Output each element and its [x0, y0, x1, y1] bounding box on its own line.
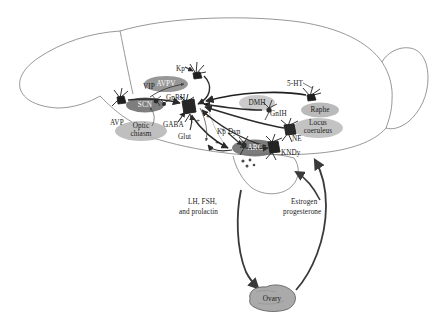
sign-plus-6: +	[215, 140, 219, 148]
label-vip: VIP	[143, 83, 155, 91]
label-avp: AVP	[110, 119, 124, 127]
figure-canvas: AVPV SCN Opticchiasm DMH Raphe Locuscoer…	[0, 0, 441, 324]
arrow-estrogen-progesterone-to-brain	[296, 160, 326, 290]
label-gnih: GnIH	[270, 110, 287, 118]
label-kndy: KNDy	[281, 149, 301, 157]
nucleus-label-locus-coeruleus: Locuscoeruleus	[296, 119, 340, 135]
label-progesterone: progesterone	[283, 208, 321, 216]
label-5-ht: 5-HT	[287, 80, 303, 88]
nucleus-label-scn: SCN	[133, 101, 157, 109]
arrow-lh-fsh-prolactin-to-ovary	[238, 190, 258, 288]
nucleus-label-dmh: DMH	[243, 99, 271, 107]
sign-plus-5: +	[206, 114, 210, 122]
nucleus-label-raphe: Raphe	[306, 106, 334, 114]
label-lh-fsh: LH, FSH,	[188, 198, 217, 206]
label-gaba: GABA	[163, 121, 184, 129]
nucleus-label-avpv: AVPV	[151, 80, 181, 88]
sign-plus-7: +	[209, 147, 213, 155]
label-kp-avpv: Kp	[176, 65, 185, 73]
connector-5ht	[303, 83, 312, 88]
sign-plus-8: +	[221, 127, 225, 135]
label-glut: Glut	[178, 133, 191, 141]
sign-plus-1: +	[179, 95, 183, 103]
sign-plus-3: +	[196, 118, 200, 126]
arrow-estrogen-feedback-pituitary	[296, 172, 320, 200]
label-and-prolactin: and prolactin	[179, 208, 218, 216]
label-estrogen: Estrogen	[291, 198, 317, 206]
brain-outline	[20, 18, 428, 194]
nucleus-label-ovary: Ovary	[259, 295, 285, 303]
nucleus-label-arc: ARC	[241, 144, 269, 152]
diagram-svg	[0, 0, 441, 324]
label-ne: NE	[292, 135, 302, 143]
nucleus-label-optic-chiasm: Opticchiasm	[118, 122, 164, 138]
sign-plus-2: +	[179, 112, 183, 120]
sign-plus-4: +	[204, 102, 208, 110]
hormone-loop	[238, 160, 326, 311]
neuron-raphe-5ht	[303, 86, 321, 101]
neuron-scn-left	[112, 88, 128, 106]
